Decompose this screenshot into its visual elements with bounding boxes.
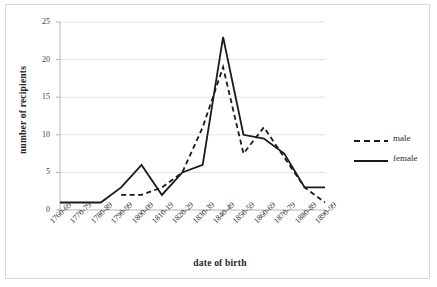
x-tick-marks (56, 22, 325, 214)
x-axis-title: date of birth (120, 258, 320, 268)
legend-swatch-male (354, 138, 388, 144)
y-tick-label: 15 (28, 92, 50, 101)
y-tick-label: 5 (28, 167, 50, 176)
y-tick-label: 25 (28, 17, 50, 26)
legend-label-female: female (393, 153, 417, 163)
y-tick-label: 20 (28, 55, 50, 64)
axis-lines (60, 22, 325, 210)
y-tick-label: 10 (28, 130, 50, 139)
y-tick-label: 0 (28, 205, 50, 214)
series-line-female (60, 37, 325, 202)
gridlines (60, 22, 325, 172)
legend-label-male: male (393, 133, 411, 143)
data-series (60, 37, 325, 202)
line-chart: 0510152025 1760-691770-791780-891790-991… (0, 0, 437, 287)
legend-swatch-female (354, 158, 388, 164)
y-axis-title: number of recipients (18, 40, 28, 180)
